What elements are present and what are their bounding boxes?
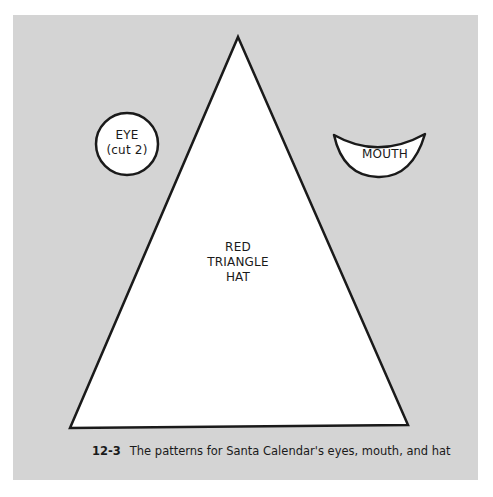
- mouth-label: MOUTH: [345, 147, 425, 162]
- figure-number: 12-3: [92, 444, 121, 458]
- hat-label: RED TRIANGLE HAT: [188, 240, 288, 285]
- mouth-label-text: MOUTH: [345, 147, 425, 162]
- figure-caption: 12-3The patterns for Santa Calendar's ey…: [92, 444, 451, 458]
- eye-label-line2: (cut 2): [97, 143, 157, 158]
- figure-caption-text: The patterns for Santa Calendar's eyes, …: [130, 444, 451, 458]
- eye-label: EYE (cut 2): [97, 128, 157, 158]
- eye-label-line1: EYE: [97, 128, 157, 143]
- hat-label-line1: RED: [188, 240, 288, 255]
- hat-label-line2: TRIANGLE: [188, 255, 288, 270]
- hat-label-line3: HAT: [188, 270, 288, 285]
- hat-triangle-shape: [70, 37, 408, 428]
